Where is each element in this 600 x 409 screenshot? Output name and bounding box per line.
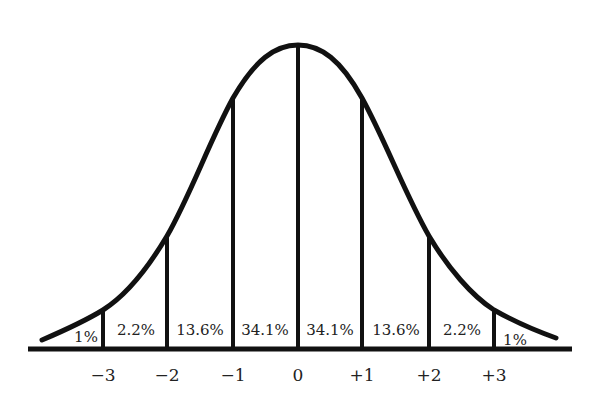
bell-curve-chart: 1% 2.2% 13.6% 34.1% 34.1% 13.6% 2.2% 1% …	[0, 0, 600, 409]
pct-label: 34.1%	[306, 321, 354, 339]
pct-label: 1%	[74, 328, 98, 346]
pct-label: 13.6%	[176, 321, 224, 339]
tick-label: −1	[220, 365, 245, 385]
pct-label: 2.2%	[117, 321, 155, 339]
tick-label: −2	[154, 365, 179, 385]
tick-label: +1	[349, 365, 374, 385]
tick-label: 0	[293, 365, 304, 385]
pct-label: 34.1%	[241, 321, 289, 339]
pct-label: 2.2%	[443, 321, 481, 339]
tick-label: +3	[481, 365, 506, 385]
tick-label: +2	[416, 365, 441, 385]
sd-lines	[103, 45, 494, 349]
pct-label: 1%	[503, 331, 527, 349]
pct-label: 13.6%	[372, 321, 420, 339]
tick-label: −3	[90, 365, 115, 385]
